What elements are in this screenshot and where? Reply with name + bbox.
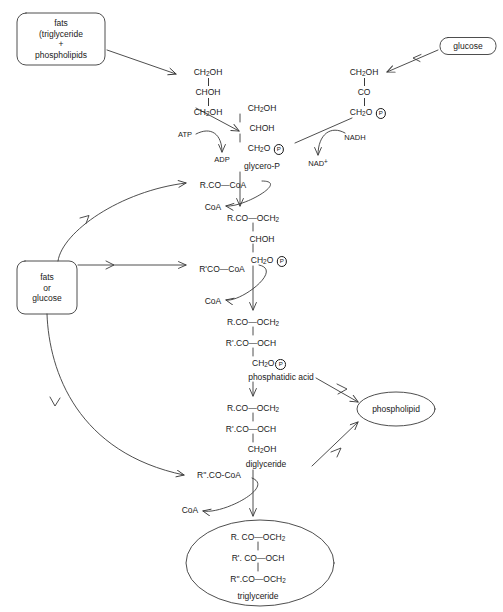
cofactor-nadh: NADH xyxy=(344,134,365,142)
box-label-fats-or-glucose: fats or glucose xyxy=(32,272,61,304)
box-line-or: or xyxy=(32,283,61,294)
phosphate-icon: P xyxy=(277,256,288,267)
metabolite-acyl-coa-2: R'CO—CoA xyxy=(199,265,245,274)
box-label-phospholipid: phospholipid xyxy=(372,404,420,415)
metabolite-dhap-c3: CH2O P xyxy=(350,108,386,119)
product-coa-2: CoA xyxy=(205,297,222,306)
arrow-pa-to-phospholipid xyxy=(316,378,358,402)
metabolite-lpa-c3: CH2O P xyxy=(251,256,287,267)
arrow-dg-to-phospholipid xyxy=(312,422,358,466)
metabolite-acyl-coa-3: R''.CO-CoA xyxy=(197,471,241,480)
metabolite-glycerop-c1: CH2OH xyxy=(248,104,277,114)
metabolite-lpa-c1: R.CO—OCH2 xyxy=(227,214,279,224)
cofactor-nad-plus: NAD+ xyxy=(308,159,328,168)
metabolite-glycerol-c1: CH2OH xyxy=(194,68,223,78)
metabolite-glycerop-name: glycero-P xyxy=(244,162,280,171)
curve-acylcoa3-to-coa3 xyxy=(203,478,258,511)
metabolite-dg-c1: R.CO—OCH2 xyxy=(227,404,279,414)
box-line-triglyceride: (triglyceride xyxy=(35,29,87,40)
arrow-fatsglucose-to-acylcoa3 xyxy=(47,314,184,475)
metabolite-dg-c2: R'.CO—OCH xyxy=(226,425,276,434)
metabolite-tg-c1: R. CO—OCH2 xyxy=(231,533,286,543)
metabolite-dhap-c2: CO xyxy=(358,88,371,97)
box-line-fats2: fats xyxy=(32,272,61,283)
pathway-vector-layer xyxy=(0,0,503,612)
metabolite-pa-c1: R.CO—OCH2 xyxy=(227,318,279,328)
metabolite-pa-c3: CH2OP xyxy=(252,359,286,370)
metabolite-pa-c2: R'.CO—OCH xyxy=(226,339,276,348)
metabolite-glycerol-c3: CH2OH xyxy=(194,108,223,118)
bond-glycerol-c1-c2 xyxy=(208,78,209,86)
curve-nadh-to-nad xyxy=(318,130,345,155)
metabolite-tg-name: triglyceride xyxy=(237,592,278,601)
arrow-glucose-to-dhap xyxy=(387,50,438,72)
phosphate-icon: P xyxy=(274,144,285,155)
phosphate-icon: P xyxy=(376,108,387,119)
ellipse-line-phospholipid: phospholipid xyxy=(372,404,420,415)
bond-dhap-c2-c3 xyxy=(364,98,365,106)
product-coa-1: CoA xyxy=(205,203,222,212)
metabolite-lpa-c2: CHOH xyxy=(249,235,274,244)
pathway-diagram: fats (triglyceride + phospholipids gluco… xyxy=(0,0,503,612)
box-label-fats-phospholipids: fats (triglyceride + phospholipids xyxy=(35,18,87,60)
metabolite-tg-c3: R''.CO—OCH2 xyxy=(230,575,285,585)
product-coa-3: CoA xyxy=(182,506,199,515)
metabolite-dg-c3: CH2OH xyxy=(248,445,277,455)
cofactor-adp: ADP xyxy=(214,156,229,164)
arrow-fatsglucose-to-acylcoa1 xyxy=(58,183,186,261)
metabolite-tg-c2: R'. CO—OCH xyxy=(232,554,285,563)
metabolite-acyl-coa-1: R.CO—CoA xyxy=(200,181,246,190)
box-line-glucose2: glucose xyxy=(32,293,61,304)
metabolite-glycerop-c3: CH2O P xyxy=(248,144,284,155)
box-line-fats: fats xyxy=(35,18,87,29)
phosphate-icon: P xyxy=(275,359,286,370)
metabolite-dhap-c1: CH2OH xyxy=(350,68,379,78)
bond-dhap-c1-c2 xyxy=(364,78,365,86)
box-line-phospholipids: phospholipids xyxy=(35,50,87,61)
metabolite-glycerop-c2: CHOH xyxy=(249,124,274,133)
curve-atp-to-adp xyxy=(196,131,222,152)
metabolite-glycerol-c2: CHOH xyxy=(195,88,220,97)
metabolite-dg-name: diglyceride xyxy=(246,460,287,469)
box-label-glucose: glucose xyxy=(453,41,482,52)
metabolite-pa-name: phosphatidic acid xyxy=(248,373,314,382)
arrowhead-phospholipid-mid-bot xyxy=(331,448,341,457)
arrowhead-acylcoa3-mid xyxy=(50,397,60,406)
bond-glycerol-c2-c3 xyxy=(208,98,209,106)
box-line-glucose: glucose xyxy=(453,41,482,52)
arrow-fats-to-glycerol xyxy=(107,50,176,74)
box-line-plus: + xyxy=(35,39,87,50)
cofactor-atp: ATP xyxy=(178,131,192,139)
